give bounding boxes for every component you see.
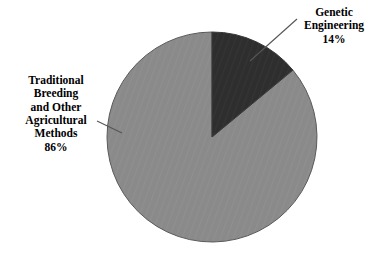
slice-label-genetic-engineering: Genetic Engineering 14%	[286, 6, 382, 46]
slice-label-traditional-breeding-line-2: Breeding	[8, 87, 104, 100]
pie-chart-figure: Genetic Engineering 14% Traditional Bree…	[0, 0, 382, 257]
slice-label-traditional-breeding-line-3: and Other	[8, 101, 104, 114]
slice-label-traditional-breeding-value: 86%	[8, 141, 104, 154]
slice-label-genetic-engineering-value: 14%	[286, 33, 382, 46]
slice-label-traditional-breeding: Traditional Breeding and Other Agricultu…	[8, 74, 104, 154]
slice-label-traditional-breeding-line-1: Traditional	[8, 74, 104, 87]
slice-label-genetic-engineering-line-1: Genetic	[286, 6, 382, 19]
slice-label-traditional-breeding-line-4: Agricultural	[8, 114, 104, 127]
slice-label-traditional-breeding-line-5: Methods	[8, 127, 104, 140]
slice-label-genetic-engineering-line-2: Engineering	[286, 19, 382, 32]
